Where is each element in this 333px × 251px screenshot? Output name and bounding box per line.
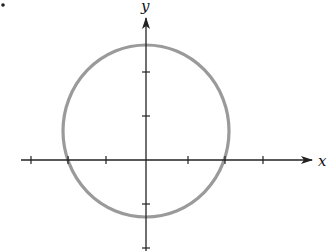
- y-axis-label: y: [140, 0, 150, 15]
- bullet-dot: [1, 3, 5, 7]
- x-axis-label: x: [318, 152, 327, 170]
- coordinate-plane: x y: [0, 0, 333, 251]
